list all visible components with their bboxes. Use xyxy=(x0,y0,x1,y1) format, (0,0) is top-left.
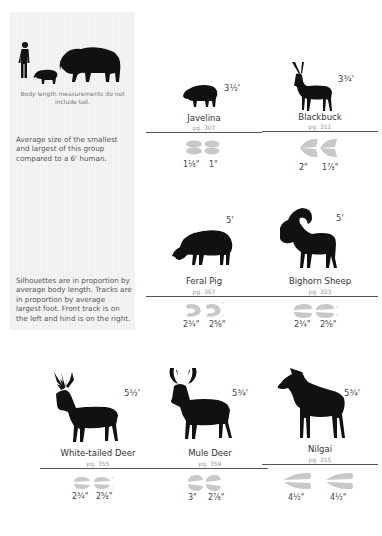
front-track-icon xyxy=(186,140,202,154)
hind-track-icon xyxy=(206,302,224,317)
hind-track-size: 2⅝" xyxy=(209,320,226,329)
bighorn-sheep-silhouette-icon xyxy=(276,206,342,272)
page-reference[interactable]: pg. 311 xyxy=(262,123,378,130)
body-length: 3½' xyxy=(224,83,240,93)
body-length: 5¾' xyxy=(232,388,248,398)
hind-track-size: 2⅞" xyxy=(208,493,225,502)
page-reference[interactable]: pg. 367 xyxy=(146,288,262,295)
body-length: 5½' xyxy=(124,388,140,398)
body-length: 5' xyxy=(226,215,234,225)
body-length: 3¾' xyxy=(338,74,354,84)
front-track-icon xyxy=(188,475,203,491)
front-track-size: 4½" xyxy=(288,493,305,502)
animal-card-mule-deer: 5¾' Mule Deer pg. 359 3" 2⅞" xyxy=(152,364,268,492)
track-prints xyxy=(262,471,378,491)
front-track-icon xyxy=(294,304,312,318)
hind-track-icon xyxy=(320,139,337,157)
divider xyxy=(146,296,262,297)
front-track-icon xyxy=(284,473,311,489)
human-silhouette-icon xyxy=(19,42,30,78)
feral-pig-silhouette-icon xyxy=(170,222,234,266)
front-track-size: 2¾" xyxy=(72,492,89,501)
track-prints xyxy=(152,473,268,493)
hind-track-size: 1⅞" xyxy=(322,163,339,172)
front-track-size: 1⅛" xyxy=(183,160,200,169)
track-prints xyxy=(146,139,262,157)
animal-card-nilgai: 5¾' Nilgai pg. 315 4½" 4½" xyxy=(262,364,378,492)
track-prints xyxy=(40,474,156,492)
front-track-size: 2¾" xyxy=(183,320,200,329)
page-reference[interactable]: pg. 323 xyxy=(262,288,378,295)
hind-track-icon xyxy=(94,477,114,489)
hind-track-size: 4½" xyxy=(330,493,347,502)
nilgai-silhouette-icon xyxy=(276,366,358,442)
legend-panel: Body length measurements do not include … xyxy=(10,12,135,330)
bison-silhouette-icon xyxy=(60,47,121,82)
animal-name: Javelina xyxy=(146,113,262,123)
hind-track-icon xyxy=(206,475,221,491)
animal-name: Nilgai xyxy=(262,444,378,454)
hind-track-size: 2⅝" xyxy=(96,492,113,501)
hind-track-size: 1" xyxy=(209,160,218,169)
divider xyxy=(262,131,378,132)
divider xyxy=(146,132,262,133)
track-prints xyxy=(146,301,262,319)
mule-deer-silhouette-icon xyxy=(166,364,238,444)
blackbuck-silhouette-icon xyxy=(290,60,334,114)
front-track-size: 3" xyxy=(188,493,197,502)
scale-description: Average size of the smallest and largest… xyxy=(16,135,132,163)
hind-track-icon xyxy=(326,473,353,489)
divider xyxy=(262,464,378,465)
animal-card-bighorn-sheep: 5' Bighorn Sheep pg. 323 2¾" 2⅝" xyxy=(262,206,378,330)
track-prints xyxy=(262,302,378,320)
animal-name: Blackbuck xyxy=(262,112,378,122)
hind-track-icon xyxy=(316,304,338,318)
divider xyxy=(40,468,156,469)
page-reference[interactable]: pg. 315 xyxy=(262,456,378,463)
animal-card-blackbuck: 3¾' Blackbuck pg. 311 2" 1⅞" xyxy=(262,56,378,180)
track-prints xyxy=(262,137,378,159)
front-track-size: 2" xyxy=(299,163,308,172)
animal-card-feral-pig: 5' Feral Pig pg. 367 2¾" 2⅝" xyxy=(146,210,262,330)
front-track-size: 2¾" xyxy=(294,320,311,329)
divider xyxy=(152,468,268,469)
front-track-icon xyxy=(186,304,201,317)
divider xyxy=(262,296,378,297)
front-track-icon xyxy=(74,477,90,489)
scale-note: Body length measurements do not include … xyxy=(10,90,135,106)
javelina-silhouette-icon xyxy=(34,70,58,84)
javelina-silhouette-icon xyxy=(182,82,218,108)
front-track-icon xyxy=(300,139,318,157)
animal-card-white-tailed-deer: 5½' White-tailed Deer pg. 355 2¾" 2⅝" xyxy=(40,368,156,492)
white-tailed-deer-silhouette-icon xyxy=(50,370,122,442)
scale-comparison-figures xyxy=(18,40,126,90)
page-reference[interactable]: pg. 359 xyxy=(152,460,268,467)
animal-name: Bighorn Sheep xyxy=(262,276,378,286)
animal-name: Mule Deer xyxy=(152,448,268,458)
page-reference[interactable]: pg. 307 xyxy=(146,124,262,131)
proportion-description: Silhouettes are in proportion by average… xyxy=(16,276,132,323)
body-length: 5¾' xyxy=(344,388,360,398)
hind-track-icon xyxy=(205,141,220,155)
animal-name: Feral Pig xyxy=(146,276,262,286)
animal-card-javelina: 3½' Javelina pg. 307 1⅛" 1" xyxy=(146,70,262,180)
body-length: 5' xyxy=(336,213,344,223)
hind-track-size: 2⅝" xyxy=(320,320,337,329)
page-reference[interactable]: pg. 355 xyxy=(40,460,156,467)
animal-name: White-tailed Deer xyxy=(40,448,156,458)
